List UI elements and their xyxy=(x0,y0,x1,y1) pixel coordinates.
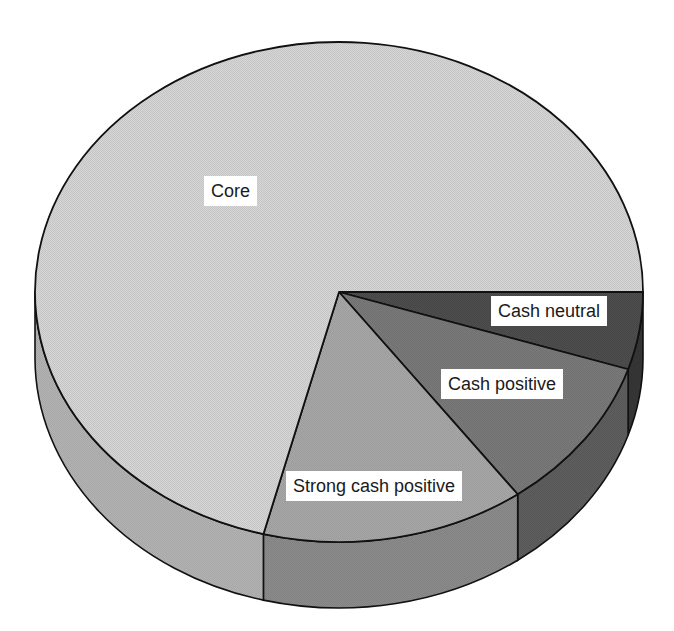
label-core: Core xyxy=(204,176,257,206)
pie-top-faces xyxy=(35,42,643,542)
label-cash-positive: Cash positive xyxy=(441,369,563,399)
label-strong-cash-positive: Strong cash positive xyxy=(286,471,462,501)
label-cash-neutral: Cash neutral xyxy=(491,296,607,326)
